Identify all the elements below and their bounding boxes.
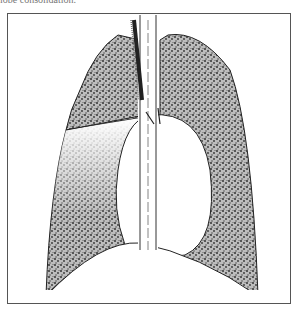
heart [116,115,211,257]
chest-diagram [0,0,298,314]
right-upper-lobe [66,35,140,130]
